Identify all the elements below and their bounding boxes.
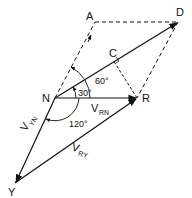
label-V-RY: V RY xyxy=(70,140,91,159)
label-D: D xyxy=(176,6,184,18)
angle-label-30: 30° xyxy=(78,88,92,98)
angle-label-60: 60° xyxy=(95,76,109,86)
svg-text:V: V xyxy=(91,102,99,114)
svg-text:RN: RN xyxy=(99,109,109,116)
label-Y: Y xyxy=(8,186,16,198)
label-V-RN: V RN xyxy=(91,102,109,116)
phasor-diagram: A D C N R Y 30° 60° 120° V RN V YN V RY xyxy=(0,0,192,198)
arc-120 xyxy=(46,98,79,121)
label-V-YN: V YN xyxy=(18,112,39,134)
angle-label-120: 120° xyxy=(69,119,88,129)
vector-ND xyxy=(55,23,177,98)
dashed-line-D-R xyxy=(137,22,178,98)
label-N: N xyxy=(42,92,50,104)
label-A: A xyxy=(86,10,94,22)
arc-30 xyxy=(73,87,76,98)
svg-text:YN: YN xyxy=(28,115,39,127)
label-R: R xyxy=(142,92,150,104)
dashed-line-N-A xyxy=(55,22,95,98)
arrow-on-NA xyxy=(88,35,91,42)
label-C: C xyxy=(109,47,117,59)
dashed-line-R-C xyxy=(113,60,137,98)
svg-text:RY: RY xyxy=(77,149,89,159)
